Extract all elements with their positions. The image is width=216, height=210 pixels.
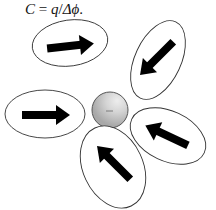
dipole-top-right (119, 12, 196, 108)
dipole-top-left (29, 15, 111, 71)
dipole-left (5, 90, 85, 138)
dipole-diagram (0, 0, 216, 210)
central-sphere (92, 92, 128, 128)
